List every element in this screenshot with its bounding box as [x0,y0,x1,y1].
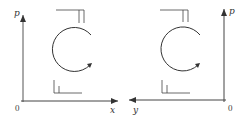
left-p-label: p [14,9,20,18]
diagram-canvas [0,0,246,121]
left-panel [21,10,118,102]
right-origin-label: 0 [228,104,233,113]
left-top-bracket [56,10,84,23]
right-top-bracket [160,10,188,22]
left-origin-label: 0 [15,104,20,113]
left-bottom-bracket [54,80,82,93]
right-panel [129,9,226,102]
left-x-label: x [110,106,115,115]
right-y-label: y [133,106,138,115]
left-rotation-arrow [52,27,91,71]
right-p-label: p [229,7,235,16]
right-bottom-bracket [162,80,190,93]
right-rotation-arrow [161,27,200,71]
phase-diagram-figure: p x 0 p y 0 [0,0,246,121]
